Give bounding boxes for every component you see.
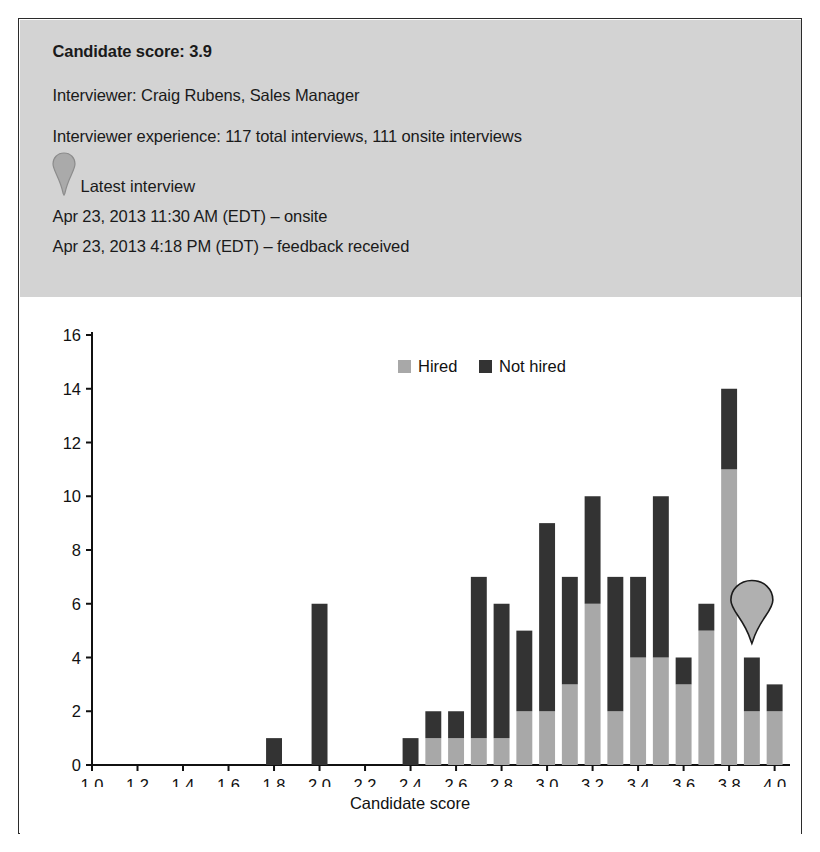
bar-segment-not-hired [652,496,668,657]
bar-segment-hired [698,631,714,765]
x-tick-label: 2.2 [353,776,376,787]
latest-interview-line-feedback: Apr 23, 2013 4:18 PM (EDT) – feedback re… [53,237,801,256]
bar-segment-hired [675,684,691,765]
x-tick-label: 2.0 [308,776,331,787]
candidate-score-heading: Candidate score: 3.9 [53,42,801,61]
x-axis-title: Candidate score [20,794,801,813]
bar-segment-hired [561,684,577,765]
bar-segment-not-hired [607,577,623,711]
latest-interview-line-onsite: Apr 23, 2013 11:30 AM (EDT) – onsite [53,207,801,226]
latest-interview-marker [730,581,772,644]
bar-segment-not-hired [493,604,509,738]
bar-segment-not-hired [470,577,486,738]
bar-segment-not-hired [675,658,691,685]
latest-interview-header: Latest interview [53,168,801,204]
bar-segment-hired [425,738,441,765]
bar-segment-hired [493,738,509,765]
bar-segment-not-hired [721,389,737,470]
bar-segment-not-hired [766,684,782,711]
y-tick-label: 10 [62,487,80,505]
bar-segment-not-hired [539,523,555,711]
x-tick-label: 1.8 [262,776,285,787]
bar-segment-hired [584,604,600,765]
x-tick-label: 2.6 [444,776,467,787]
x-tick-label: 3.8 [717,776,740,787]
bar-segment-not-hired [425,711,441,738]
bar-segment-not-hired [402,738,418,765]
bar-segment-not-hired [311,604,327,765]
y-tick-label: 4 [71,649,80,667]
bar-segment-hired [630,658,646,766]
y-tick-label: 12 [62,434,80,452]
legend-label-hired: Hired [418,357,457,375]
x-tick-label: 4.0 [763,776,786,787]
legend-swatch-not-hired [479,360,492,373]
bar-segment-hired [721,469,737,765]
x-tick-label: 2.4 [399,776,422,787]
bar-segment-not-hired [743,658,759,712]
candidate-info-panel: Candidate score: 3.9 Interviewer: Craig … [20,20,801,297]
bar-segment-not-hired [448,711,464,738]
map-pin-icon [730,581,772,644]
legend-label-not-hired: Not hired [499,357,566,375]
y-tick-label: 14 [62,380,80,398]
legend-swatch-hired [398,360,411,373]
x-tick-label: 1.6 [217,776,240,787]
latest-interview-label: Latest interview [81,177,196,196]
map-pin-icon [51,151,77,201]
chart-plot: 02468101214161.01.21.41.61.82.02.22.42.6… [20,297,801,787]
interviewer-line: Interviewer: Craig Rubens, Sales Manager [53,86,801,105]
y-tick-label: 8 [71,541,80,559]
x-tick-label: 3.0 [535,776,558,787]
x-tick-label: 3.2 [581,776,604,787]
bar-segment-not-hired [266,738,282,765]
bar-segment-hired [766,711,782,765]
bar-segment-not-hired [561,577,577,685]
bar-segment-hired [539,711,555,765]
bar-segment-not-hired [630,577,646,658]
x-tick-label: 1.4 [171,776,194,787]
x-tick-label: 2.8 [490,776,513,787]
bar-segment-hired [470,738,486,765]
x-tick-label: 1.0 [80,776,103,787]
bar-segment-not-hired [698,604,714,631]
y-tick-label: 6 [71,595,80,613]
y-tick-label: 0 [71,756,80,774]
y-tick-label: 16 [62,326,80,344]
bar-segment-not-hired [516,631,532,712]
bar-segment-hired [607,711,623,765]
x-tick-label: 3.6 [672,776,695,787]
y-tick-label: 2 [71,702,80,720]
interview-score-histogram: Number of interviews 02468101214161.01.2… [20,297,801,834]
x-tick-label: 1.2 [126,776,149,787]
bar-segment-hired [516,711,532,765]
screenshot-root: Candidate score: 3.9 Interviewer: Craig … [0,0,820,852]
interviewer-experience-line: Interviewer experience: 117 total interv… [53,127,801,146]
bar-segment-hired [743,711,759,765]
bar-segment-hired [652,658,668,766]
bar-segment-not-hired [584,496,600,604]
x-tick-label: 3.4 [626,776,649,787]
latest-interview-block: Latest interview Apr 23, 2013 11:30 AM (… [53,168,801,256]
bar-segment-hired [448,738,464,765]
